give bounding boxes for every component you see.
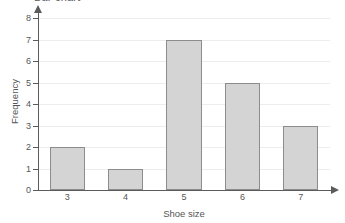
x-axis-tick-label: 7 <box>272 193 330 202</box>
y-axis-tick-mark <box>33 83 38 84</box>
x-axis-tick-label: 5 <box>155 193 213 202</box>
bar <box>50 147 85 190</box>
x-axis-title: Shoe size <box>38 208 330 219</box>
y-axis-tick-mark <box>33 169 38 170</box>
y-axis-tick-label: 7 <box>9 36 31 45</box>
bar-chart: Bar chart 012345678 34567 Shoe size Freq… <box>0 0 345 223</box>
y-axis-arrow-icon <box>34 5 42 13</box>
y-axis-title: Frequency <box>9 57 20 147</box>
x-axis-tick-label: 3 <box>38 193 96 202</box>
x-axis-tick-labels: 34567 <box>38 193 330 207</box>
y-axis-tick-label: 1 <box>9 165 31 174</box>
x-axis-line <box>38 190 332 191</box>
y-axis-tick-mark <box>33 61 38 62</box>
y-axis-tick-mark <box>33 40 38 41</box>
x-axis-tick-label: 4 <box>96 193 154 202</box>
bars-layer <box>38 18 330 190</box>
y-axis-tick-mark <box>33 147 38 148</box>
x-axis-arrow-icon <box>331 186 339 194</box>
bar <box>108 169 143 191</box>
y-axis-tick-mark <box>33 104 38 105</box>
y-axis-line <box>38 12 39 190</box>
bar <box>166 40 201 191</box>
y-axis-tick-mark <box>33 18 38 19</box>
bar <box>283 126 318 191</box>
chart-title: Bar chart <box>34 0 80 3</box>
y-axis-tick-label: 8 <box>9 14 31 23</box>
bar <box>225 83 260 191</box>
y-axis-tick-mark <box>33 126 38 127</box>
y-axis-tick-label: 0 <box>9 186 31 195</box>
y-axis-tick-mark <box>33 190 38 191</box>
x-axis-tick-label: 6 <box>213 193 271 202</box>
